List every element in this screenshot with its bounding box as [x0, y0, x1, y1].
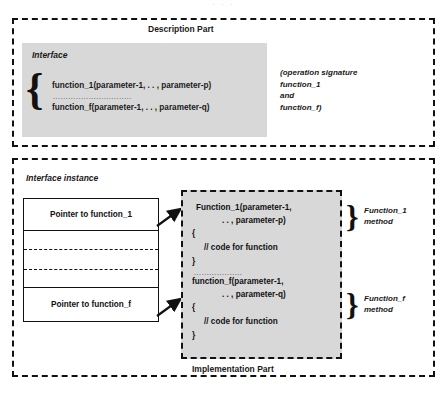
code-line-function-f-comment: // code for function	[204, 317, 278, 326]
code-ellipsis: ...................	[194, 269, 242, 276]
left-brace-glyph: {	[26, 68, 43, 112]
code-line-function-1-close-brace: }	[192, 257, 195, 266]
interface-instance-label: Interface instance	[26, 173, 98, 183]
function-1-method-label: Function_1 method	[364, 205, 407, 227]
code-line-function-f-close-brace: }	[192, 331, 195, 340]
code-line-function-1-comment: // code for function	[204, 243, 278, 252]
operation-signature-note: (operation signature function_1 and func…	[280, 67, 357, 113]
signature-function-f: function_f(parameter-1, . . , parameter-…	[52, 103, 209, 112]
code-line-function-1-open-brace: {	[192, 229, 195, 238]
code-line-function-f-params: . . , parameter-q)	[222, 290, 286, 299]
pointer-row-empty-2	[24, 250, 158, 270]
implementation-part-title: Implementation Part	[192, 364, 274, 374]
signature-ellipsis: ...............................	[53, 93, 132, 100]
right-brace-function-f-glyph: }	[346, 288, 359, 320]
interface-label: Interface	[32, 50, 67, 60]
pointer-row-empty-3	[24, 270, 158, 288]
code-line-function-1-params: . . , parameter-p)	[222, 216, 286, 225]
right-brace-function-1-glyph: }	[346, 200, 359, 232]
pointer-row-function-f[interactable]: Pointer to function_f	[24, 288, 158, 320]
pointer-table: Pointer to function_1 Pointer to functio…	[23, 198, 159, 322]
pointer-row-function-1[interactable]: Pointer to function_1	[24, 199, 158, 231]
function-f-method-label: Function_f method	[364, 293, 405, 315]
code-line-function-f-open-brace: {	[192, 303, 195, 312]
description-part-title: Description Part	[148, 24, 214, 34]
code-line-function-1-signature: Function_1(parameter-1,	[196, 203, 292, 212]
code-line-function-f-signature: function_f(parameter-1,	[192, 277, 283, 286]
signature-function-1: function_1(parameter-1, . . , parameter-…	[52, 81, 211, 90]
pointer-row-empty-1	[24, 231, 158, 250]
page-top-remnant: · · ·	[0, 0, 447, 9]
